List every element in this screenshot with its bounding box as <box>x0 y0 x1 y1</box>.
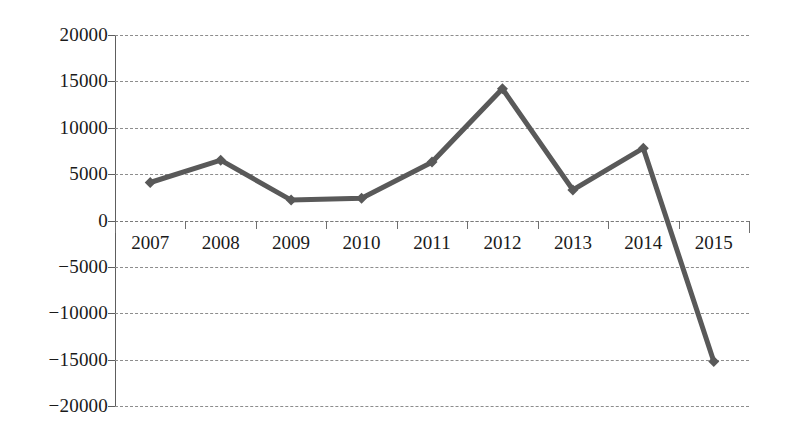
x-axis-tick-label: 2015 <box>695 233 733 252</box>
x-axis-tick-label: 2011 <box>413 233 450 252</box>
y-axis-tick-label: 15000 <box>8 71 108 90</box>
x-axis-tick <box>749 221 750 233</box>
x-axis-tick-label: 2010 <box>343 233 381 252</box>
y-axis-tick-label: −10000 <box>8 303 108 322</box>
plot-area <box>115 35 749 406</box>
y-axis-tick <box>108 221 115 222</box>
y-axis-tick-label: 0 <box>8 211 108 230</box>
y-axis-tick <box>108 128 115 129</box>
y-axis-tick-label: −5000 <box>8 257 108 276</box>
x-axis-tick-label: 2012 <box>483 233 521 252</box>
y-axis-tick-label: −20000 <box>8 396 108 415</box>
y-axis-tick <box>108 360 115 361</box>
series-polyline <box>150 89 714 362</box>
x-axis-tick-label: 2007 <box>131 233 169 252</box>
y-axis-tick <box>108 174 115 175</box>
line-chart: 20000150001000050000−5000−10000−15000−20… <box>0 0 787 435</box>
x-axis-tick-label: 2014 <box>624 233 662 252</box>
y-axis-tick <box>108 81 115 82</box>
series-line <box>115 35 749 406</box>
y-axis-tick-label: 5000 <box>8 164 108 183</box>
x-axis-tick-label: 2008 <box>202 233 240 252</box>
y-axis-tick <box>108 267 115 268</box>
x-axis-tick-label: 2013 <box>554 233 592 252</box>
y-axis-tick <box>108 406 115 407</box>
x-axis-tick-label: 2009 <box>272 233 310 252</box>
y-axis-tick <box>108 313 115 314</box>
data-point-marker <box>145 177 156 188</box>
y-axis-tick-label: 20000 <box>8 25 108 44</box>
y-axis-tick-label: 10000 <box>8 118 108 137</box>
gridline <box>115 406 749 407</box>
y-axis-tick-label: −15000 <box>8 350 108 369</box>
y-axis-labels: 20000150001000050000−5000−10000−15000−20… <box>0 0 108 435</box>
y-axis-tick <box>108 35 115 36</box>
